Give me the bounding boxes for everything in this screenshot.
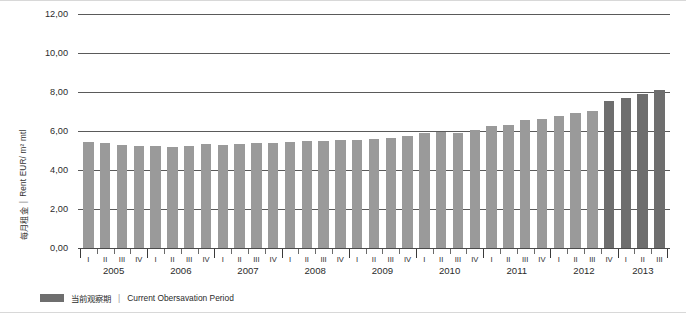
bar[interactable] (218, 145, 228, 248)
bar[interactable] (503, 125, 513, 248)
bar-slot (332, 14, 349, 248)
bar-slot (450, 14, 467, 248)
bar-slot (298, 14, 315, 248)
year-label: 2013 (618, 265, 668, 277)
bar[interactable] (251, 143, 261, 248)
bar[interactable] (386, 138, 396, 248)
bar[interactable] (302, 141, 312, 248)
bar[interactable] (150, 146, 160, 248)
quarter-tick-label: III (382, 249, 399, 264)
year-label: 2010 (416, 265, 483, 277)
bar[interactable] (402, 136, 412, 248)
rent-bar-chart: 每月租金 | Rent EUR/ m² mtl 0,002,004,006,00… (0, 0, 686, 313)
bar[interactable] (470, 130, 480, 248)
bar-slot (315, 14, 332, 248)
bar[interactable] (436, 132, 446, 248)
quarter-tick-label: II (567, 249, 584, 264)
year-label: 2008 (282, 265, 349, 277)
bar-slot (248, 14, 265, 248)
bar-slot (550, 14, 567, 248)
bar-slot (282, 14, 299, 248)
quarter-tick-label: IV (399, 249, 416, 264)
bar[interactable] (100, 143, 110, 248)
bar[interactable] (587, 111, 597, 248)
bar[interactable] (117, 145, 127, 248)
x-axis: IIIIIIIVIIIIIIIVIIIIIIIVIIIIIIIVIIIIIIIV… (78, 248, 670, 282)
quarter-tick-label: II (634, 249, 651, 264)
year-label: 2012 (550, 265, 617, 277)
year-label: 2009 (349, 265, 416, 277)
chart-legend: 当前观察期 | Current Obersavation Period (40, 292, 234, 304)
legend-swatch-current-period (40, 294, 64, 302)
bar-slot (517, 14, 534, 248)
bar[interactable] (201, 144, 211, 248)
y-axis-title: 每月租金 | Rent EUR/ m² mtl (16, 40, 30, 240)
bar[interactable] (134, 146, 144, 248)
quarter-tick-label: III (651, 249, 668, 264)
bar[interactable] (486, 126, 496, 248)
bar[interactable] (83, 142, 93, 248)
y-axis-tick-label: 4,00 (50, 165, 68, 175)
bar-slot (584, 14, 601, 248)
bar[interactable] (654, 90, 664, 248)
legend-label-zh: 当前观察期 (71, 292, 111, 304)
bar[interactable] (570, 113, 580, 248)
bar-slot (349, 14, 366, 248)
bar-slot (366, 14, 383, 248)
bar[interactable] (637, 94, 647, 248)
year-labels: 200520062007200820092010201120122013 (78, 265, 670, 277)
quarter-tick-label: III (584, 249, 601, 264)
bar-slot (147, 14, 164, 248)
y-axis-tick-label: 8,00 (50, 87, 68, 97)
bar[interactable] (335, 140, 345, 248)
y-axis-title-separator: | (19, 201, 28, 203)
bar[interactable] (369, 139, 379, 248)
quarter-tick-label: III (114, 249, 131, 264)
bar[interactable] (520, 120, 530, 248)
bar-slot (483, 14, 500, 248)
bar-slot (634, 14, 651, 248)
quarter-tick-label: IV (534, 249, 551, 264)
bar[interactable] (234, 144, 244, 248)
quarter-tick-label: III (315, 249, 332, 264)
y-axis-tick-label: 2,00 (50, 204, 68, 214)
bar[interactable] (621, 98, 631, 248)
quarter-tick-label: III (181, 249, 198, 264)
bar[interactable] (419, 133, 429, 248)
bar-slot (198, 14, 215, 248)
quarter-tick-labels: IIIIIIIVIIIIIIIVIIIIIIIVIIIIIIIVIIIIIIIV… (78, 249, 670, 264)
bar[interactable] (268, 143, 278, 248)
y-axis-tick-label: 10,00 (45, 48, 68, 58)
quarter-tick-label: IV (198, 249, 215, 264)
bar[interactable] (285, 142, 295, 248)
year-label: 2006 (147, 265, 214, 277)
plot-area: 0,002,004,006,008,0010,0012,00 (78, 14, 670, 248)
bar-slot (399, 14, 416, 248)
year-label: 2005 (80, 265, 147, 277)
quarter-tick-label: IV (332, 249, 349, 264)
bar-slot (651, 14, 668, 248)
year-label: 2011 (483, 265, 550, 277)
bar[interactable] (554, 116, 564, 248)
quarter-tick-label: I (550, 249, 567, 264)
bar-slot (618, 14, 635, 248)
top-divider (0, 0, 686, 1)
quarter-tick-label: II (500, 249, 517, 264)
quarter-tick-label: II (433, 249, 450, 264)
bar[interactable] (537, 119, 547, 248)
y-axis-title-zh: 每月租金 (17, 207, 29, 240)
bar-series (78, 14, 670, 248)
bar[interactable] (167, 147, 177, 248)
quarter-tick-label: III (450, 249, 467, 264)
quarter-tick-label: I (483, 249, 500, 264)
bar[interactable] (352, 140, 362, 248)
quarter-tick-label: II (97, 249, 114, 264)
bar-slot (382, 14, 399, 248)
bar[interactable] (453, 133, 463, 248)
quarter-tick-label: III (248, 249, 265, 264)
quarter-tick-label: I (282, 249, 299, 264)
bar[interactable] (318, 141, 328, 248)
quarter-tick-label: II (164, 249, 181, 264)
bar[interactable] (604, 101, 614, 248)
bar[interactable] (184, 146, 194, 248)
